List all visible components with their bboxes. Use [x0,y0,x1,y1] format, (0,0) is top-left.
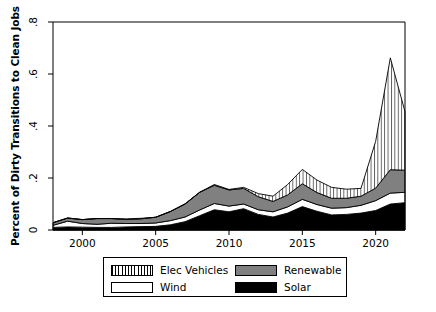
legend-item-elec-vehicles[interactable]: Elec Vehicles [111,262,228,278]
legend-label-renewable: Renewable [284,264,341,276]
legend-swatch-elec-vehicles [111,265,153,276]
legend-swatch-solar [235,282,277,293]
legend-label-solar: Solar [284,281,311,293]
legend-item-solar[interactable]: Solar [235,279,311,295]
legend-item-wind[interactable]: Wind [111,279,186,295]
legend-swatch-wind [111,282,153,293]
chart-legend: Elec Vehicles Renewable Wind Solar [103,257,347,297]
stacked-areas [53,58,405,230]
legend-label-wind: Wind [160,281,186,293]
legend-item-renewable[interactable]: Renewable [235,262,341,278]
legend-label-elec-vehicles: Elec Vehicles [160,264,228,276]
legend-swatch-renewable [235,265,277,276]
chart-figure: Percent of Dirty Transitions to Clean Jo… [0,0,436,312]
